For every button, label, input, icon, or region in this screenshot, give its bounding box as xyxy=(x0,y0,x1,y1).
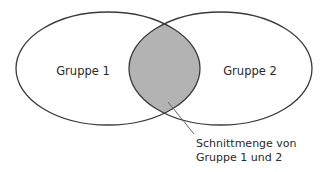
intersection-region xyxy=(129,12,312,125)
set-label-gruppe-1: Gruppe 1 xyxy=(56,64,110,78)
intersection-annotation-line-1: Schnittmenge von xyxy=(196,137,297,150)
set-label-gruppe-2: Gruppe 2 xyxy=(223,64,277,78)
annotation-leader-line xyxy=(168,102,194,134)
venn-diagram: Gruppe 1 Gruppe 2 Schnittmenge von Grupp… xyxy=(0,0,325,172)
intersection-annotation-line-2: Gruppe 1 und 2 xyxy=(196,151,282,164)
